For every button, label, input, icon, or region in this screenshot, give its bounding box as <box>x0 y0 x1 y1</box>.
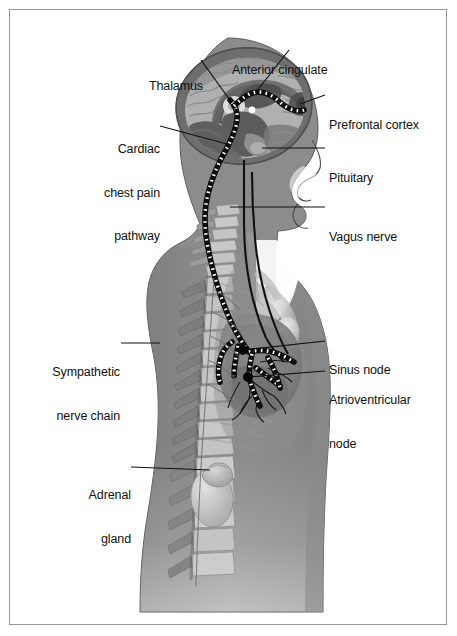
label-cardiac-line-2: chest pain <box>45 186 160 201</box>
label-vagus-nerve-line-1: Vagus nerve <box>329 230 397 245</box>
label-adrenal-gland: Adrenal gland <box>55 459 131 575</box>
label-atrioventricular-node: Atrioventricular node <box>329 364 411 480</box>
label-av-node-line-1: Atrioventricular <box>329 393 411 408</box>
label-vagus-nerve: Vagus nerve <box>329 201 397 274</box>
anatomical-figure: Thalamus Anterior cingulate Prefrontal c… <box>0 0 457 636</box>
label-adrenal-line-1: Adrenal <box>55 488 131 503</box>
label-thalamus: Thalamus <box>143 50 203 123</box>
label-anterior-cingulate-line-1: Anterior cingulate <box>232 63 327 78</box>
label-cardiac-line-1: Cardiac <box>45 142 160 157</box>
label-sympathetic-nerve-chain: Sympathetic nerve chain <box>30 336 120 452</box>
label-anterior-cingulate: Anterior cingulate <box>232 34 327 107</box>
label-adrenal-line-2: gland <box>55 532 131 547</box>
label-cardiac-chest-pain-pathway: Cardiac chest pain pathway <box>45 113 160 273</box>
thalamus-dot <box>249 107 256 114</box>
label-av-node-line-2: node <box>329 437 411 452</box>
label-sympathetic-line-1: Sympathetic <box>30 365 120 380</box>
label-pituitary-line-1: Pituitary <box>329 171 373 186</box>
label-sympathetic-line-2: nerve chain <box>30 409 120 424</box>
label-cardiac-line-3: pathway <box>45 229 160 244</box>
label-thalamus-line-1: Thalamus <box>143 79 203 94</box>
label-prefrontal-cortex-line-1: Prefrontal cortex <box>329 118 419 133</box>
